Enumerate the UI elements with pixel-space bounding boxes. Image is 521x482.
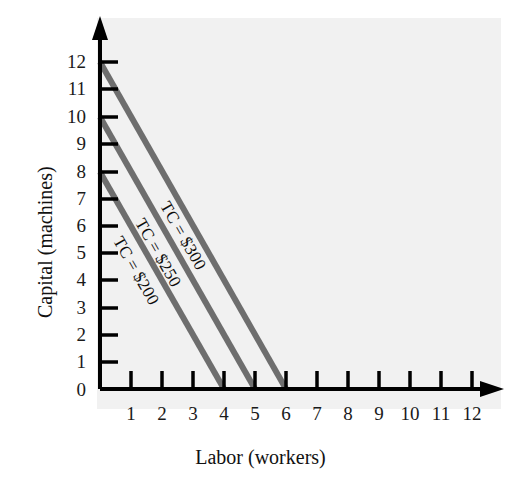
y-tick-label-12: 12 [52, 52, 86, 71]
y-tick-label-1: 1 [52, 352, 86, 371]
y-tick-label-5: 5 [52, 243, 86, 262]
y-axis-arrowhead [92, 16, 108, 40]
y-tick-label-11: 11 [52, 79, 86, 98]
y-tick-label-8: 8 [52, 162, 86, 181]
y-tick-label-3: 3 [52, 298, 86, 317]
y-axis-ticks [100, 62, 118, 362]
x-tick-label-12: 12 [452, 404, 492, 423]
isocost-chart-figure: 12 11 10 9 8 7 6 5 4 3 2 1 0 1 2 3 4 5 6… [0, 0, 521, 482]
y-tick-label-6: 6 [52, 216, 86, 235]
isocost-lines [100, 62, 286, 389]
y-tick-label-2: 2 [52, 325, 86, 344]
y-axis-title: Capital (machines) [34, 166, 57, 318]
y-tick-label-10: 10 [52, 107, 86, 126]
x-axis-title: Labor (workers) [0, 446, 521, 469]
x-axis-ticks [131, 371, 472, 389]
y-tick-label-0: 0 [52, 380, 86, 399]
x-axis-arrowhead [480, 381, 504, 397]
y-tick-label-7: 7 [52, 189, 86, 208]
y-tick-label-4: 4 [52, 270, 86, 289]
y-tick-label-9: 9 [52, 134, 86, 153]
